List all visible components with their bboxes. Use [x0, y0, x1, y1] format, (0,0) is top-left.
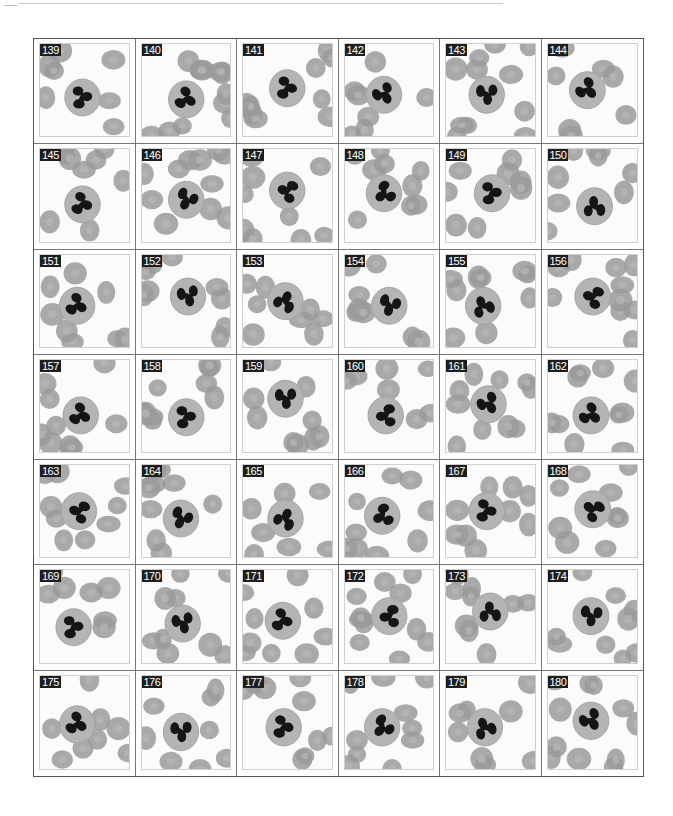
neutrophil-micrograph	[446, 465, 535, 557]
neutrophil-micrograph	[548, 149, 638, 241]
neutrophil-micrograph	[446, 360, 535, 452]
cell-number-label: 141	[243, 44, 264, 56]
micrograph-image: 163	[39, 464, 130, 558]
micrograph-image: 156	[547, 254, 639, 348]
cell-number-label: 142	[345, 44, 366, 56]
cell-152: 152	[136, 250, 238, 355]
cell-number-label: 158	[142, 360, 163, 372]
image-plate-grid: 139 140 141 14	[33, 38, 644, 777]
neutrophil-micrograph	[243, 255, 332, 347]
cell-number-label: 166	[345, 465, 366, 477]
neutrophil-micrograph	[446, 570, 535, 662]
cell-169: 169	[34, 565, 136, 670]
micrograph-image: 178	[344, 675, 435, 770]
cell-number-label: 174	[548, 570, 569, 582]
neutrophil-micrograph	[243, 465, 332, 557]
neutrophil-micrograph	[243, 360, 332, 452]
cell-number-label: 177	[243, 676, 264, 688]
cell-number-label: 165	[243, 465, 264, 477]
cell-156: 156	[542, 250, 644, 355]
micrograph-image: 151	[39, 254, 130, 348]
micrograph-image: 169	[39, 569, 130, 663]
neutrophil-micrograph	[345, 465, 434, 557]
cell-145: 145	[34, 144, 136, 249]
cell-178: 178	[339, 671, 441, 776]
neutrophil-micrograph	[345, 44, 434, 136]
micrograph-image: 168	[547, 464, 639, 558]
cell-143: 143	[440, 39, 542, 144]
cell-number-label: 150	[548, 149, 569, 161]
cell-146: 146	[136, 144, 238, 249]
neutrophil-micrograph	[548, 360, 638, 452]
neutrophil-micrograph	[142, 360, 231, 452]
cell-147: 147	[237, 144, 339, 249]
micrograph-image: 166	[344, 464, 435, 558]
cell-number-label: 156	[548, 255, 569, 267]
micrograph-image: 147	[242, 148, 333, 242]
micrograph-image: 155	[445, 254, 536, 348]
page-top-rule	[18, 3, 503, 4]
cell-number-label: 163	[40, 465, 61, 477]
cell-number-label: 161	[446, 360, 467, 372]
cell-142: 142	[339, 39, 441, 144]
cell-154: 154	[339, 250, 441, 355]
micrograph-image: 150	[547, 148, 639, 242]
micrograph-image: 153	[242, 254, 333, 348]
micrograph-image: 157	[39, 359, 130, 453]
cell-number-label: 159	[243, 360, 264, 372]
cell-179: 179	[440, 671, 542, 776]
neutrophil-micrograph	[345, 149, 434, 241]
cell-139: 139	[34, 39, 136, 144]
neutrophil-micrograph	[40, 676, 129, 769]
cell-number-label: 148	[345, 149, 366, 161]
neutrophil-micrograph	[548, 676, 638, 769]
cell-163: 163	[34, 460, 136, 565]
micrograph-image: 179	[445, 675, 536, 770]
cell-170: 170	[136, 565, 238, 670]
cell-number-label: 143	[446, 44, 467, 56]
neutrophil-micrograph	[345, 255, 434, 347]
neutrophil-micrograph	[142, 676, 231, 769]
cell-173: 173	[440, 565, 542, 670]
cell-number-label: 169	[40, 570, 61, 582]
neutrophil-micrograph	[40, 255, 129, 347]
cell-158: 158	[136, 355, 238, 460]
neutrophil-micrograph	[446, 149, 535, 241]
neutrophil-micrograph	[40, 570, 129, 662]
cell-number-label: 170	[142, 570, 163, 582]
micrograph-image: 146	[141, 148, 232, 242]
neutrophil-micrograph	[142, 255, 231, 347]
cell-number-label: 178	[345, 676, 366, 688]
cell-number-label: 153	[243, 255, 264, 267]
cell-number-label: 176	[142, 676, 163, 688]
micrograph-image: 162	[547, 359, 639, 453]
cell-number-label: 145	[40, 149, 61, 161]
cell-number-label: 175	[40, 676, 61, 688]
cell-number-label: 144	[548, 44, 569, 56]
cell-number-label: 179	[446, 676, 467, 688]
cell-number-label: 151	[40, 255, 61, 267]
micrograph-image: 172	[344, 569, 435, 663]
cell-175: 175	[34, 671, 136, 776]
micrograph-image: 170	[141, 569, 232, 663]
cell-157: 157	[34, 355, 136, 460]
micrograph-image: 143	[445, 43, 536, 137]
cell-number-label: 149	[446, 149, 467, 161]
cell-number-label: 147	[243, 149, 264, 161]
cell-168: 168	[542, 460, 644, 565]
micrograph-image: 171	[242, 569, 333, 663]
cell-number-label: 140	[142, 44, 163, 56]
micrograph-image: 177	[242, 675, 333, 770]
cell-140: 140	[136, 39, 238, 144]
micrograph-image: 165	[242, 464, 333, 558]
micrograph-image: 160	[344, 359, 435, 453]
cell-164: 164	[136, 460, 238, 565]
cell-number-label: 162	[548, 360, 569, 372]
cell-number-label: 168	[548, 465, 569, 477]
neutrophil-micrograph	[243, 44, 332, 136]
cell-148: 148	[339, 144, 441, 249]
neutrophil-micrograph	[446, 255, 535, 347]
neutrophil-micrograph	[345, 570, 434, 662]
neutrophil-micrograph	[243, 676, 332, 769]
micrograph-image: 180	[547, 675, 639, 770]
